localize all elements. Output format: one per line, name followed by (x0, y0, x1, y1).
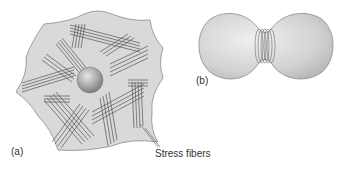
cell-a (16, 11, 163, 151)
cell-b (199, 13, 333, 79)
panel-a-label: (a) (11, 147, 23, 157)
nucleus (77, 67, 103, 93)
stress-fibers-callout: Stress fibers (155, 149, 211, 159)
panel-b-label: (b) (196, 76, 208, 86)
